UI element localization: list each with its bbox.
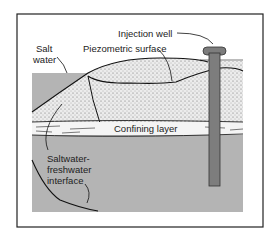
piezometric-surface-label: Piezometric surface [83,43,166,54]
interface-label-2: freshwater [47,164,91,175]
injection-well-label: Injection well [118,28,172,39]
confining-layer-label: Confining layer [113,123,178,134]
salt-water-label-1: Salt [36,43,52,54]
salt-water-label-2: water [33,54,56,65]
interface-label-1: Saltwater- [47,153,90,164]
interface-label-3: interface [47,175,83,186]
